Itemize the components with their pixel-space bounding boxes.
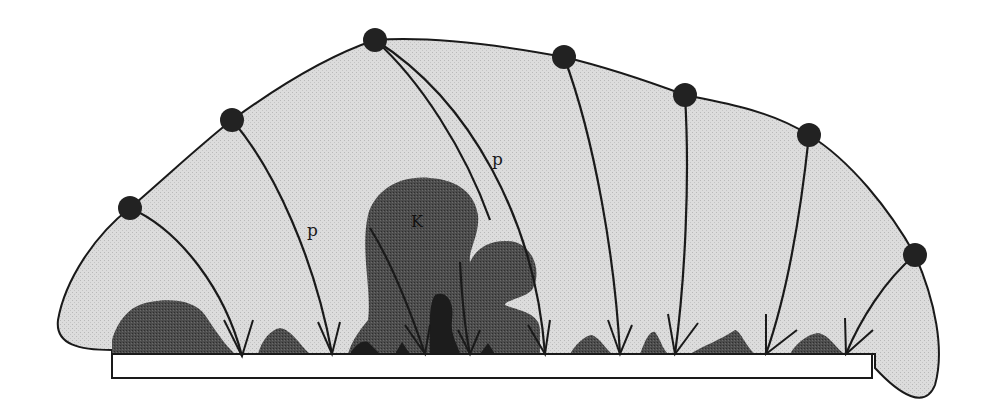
source-point	[118, 196, 142, 220]
source-point	[903, 243, 927, 267]
deposition-diagram: p p K	[0, 0, 1001, 415]
source-point	[552, 45, 576, 69]
source-point	[673, 83, 697, 107]
source-point	[220, 108, 244, 132]
trajectory-label-p-left: p	[307, 220, 318, 240]
central-feature-label-k: K	[411, 212, 424, 231]
substrate	[112, 354, 872, 378]
trajectory-label-p-center: p	[492, 149, 503, 169]
source-point	[363, 28, 387, 52]
source-point	[797, 123, 821, 147]
